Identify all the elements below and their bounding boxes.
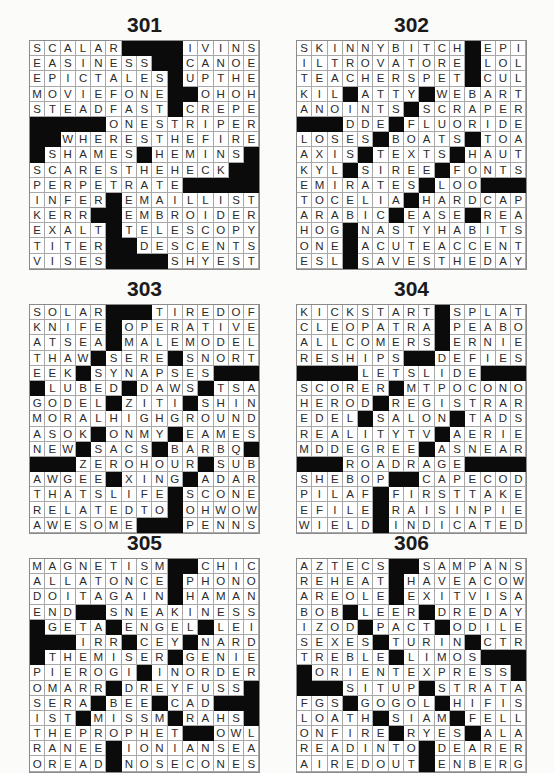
letter-cell: S	[91, 487, 106, 502]
crossword-puzzle-301: 301 SCALARIVINSEASINESSCANOEEPICTALESUPT…	[29, 12, 260, 270]
letter-cell: F	[137, 487, 152, 502]
black-square	[297, 681, 312, 696]
letter-cell: B	[343, 472, 358, 487]
letter-cell: A	[61, 41, 76, 56]
letter-cell: I	[481, 620, 496, 635]
black-square	[168, 41, 183, 56]
letter-cell: A	[214, 635, 229, 650]
black-square	[168, 102, 183, 117]
letter-cell: D	[312, 411, 327, 426]
letter-cell: K	[297, 163, 312, 178]
black-square	[419, 351, 434, 366]
black-square	[343, 605, 358, 620]
letter-cell: W	[244, 502, 259, 517]
letter-cell: A	[106, 442, 121, 457]
black-square	[419, 605, 434, 620]
black-square	[168, 711, 183, 726]
letter-cell: W	[214, 502, 229, 517]
letter-cell: I	[419, 502, 434, 517]
letter-cell: B	[328, 605, 343, 620]
letter-cell: L	[404, 411, 419, 426]
letter-cell: E	[91, 741, 106, 756]
letter-cell: E	[183, 163, 198, 178]
black-square	[328, 457, 343, 472]
black-square	[91, 605, 106, 620]
letter-cell: R	[152, 650, 167, 665]
crossword-grid: KICKSTARTSPLATCLEOPATRAPEABOALLCOMERSERN…	[296, 304, 527, 534]
letter-cell: E	[511, 502, 526, 517]
letter-cell: S	[450, 396, 465, 411]
letter-cell: R	[183, 305, 198, 320]
letter-cell: S	[450, 442, 465, 457]
letter-cell: E	[465, 665, 480, 680]
black-square	[137, 665, 152, 680]
black-square	[373, 132, 388, 147]
letter-cell: I	[404, 487, 419, 502]
letter-cell: D	[435, 351, 450, 366]
letter-cell: S	[229, 381, 244, 396]
letter-cell: S	[229, 605, 244, 620]
letter-cell: U	[496, 147, 511, 162]
letter-cell: R	[404, 726, 419, 741]
letter-cell: L	[312, 56, 327, 71]
letter-cell: M	[30, 411, 45, 426]
letter-cell: U	[198, 681, 213, 696]
letter-cell: I	[358, 351, 373, 366]
letter-cell: A	[122, 589, 137, 604]
letter-cell: H	[214, 559, 229, 574]
letter-cell: E	[312, 427, 327, 442]
letter-cell: L	[343, 411, 358, 426]
letter-cell: E	[30, 56, 45, 71]
letter-cell: F	[297, 696, 312, 711]
letter-cell: S	[389, 102, 404, 117]
letter-cell: T	[152, 102, 167, 117]
letter-cell: I	[152, 665, 167, 680]
letter-cell: E	[465, 366, 480, 381]
letter-cell: A	[76, 502, 91, 517]
letter-cell: E	[244, 71, 259, 86]
letter-cell: T	[481, 132, 496, 147]
letter-cell: L	[419, 696, 434, 711]
letter-cell: M	[450, 559, 465, 574]
letter-cell: N	[343, 41, 358, 56]
letter-cell: S	[358, 254, 373, 269]
letter-cell: E	[229, 741, 244, 756]
letter-cell: C	[244, 559, 259, 574]
letter-cell: L	[511, 71, 526, 86]
letter-cell: R	[389, 396, 404, 411]
letter-cell: T	[419, 620, 434, 635]
letter-cell: E	[61, 620, 76, 635]
letter-cell: E	[229, 756, 244, 771]
letter-cell: E	[76, 396, 91, 411]
letter-cell: D	[343, 117, 358, 132]
black-square	[106, 396, 121, 411]
letter-cell: E	[450, 741, 465, 756]
letter-cell: A	[328, 741, 343, 756]
letter-cell: A	[358, 574, 373, 589]
letter-cell: F	[358, 487, 373, 502]
letter-cell: F	[404, 117, 419, 132]
letter-cell: A	[297, 147, 312, 162]
letter-cell: M	[137, 208, 152, 223]
letter-cell: I	[404, 41, 419, 56]
letter-cell: E	[198, 238, 213, 253]
letter-cell: R	[168, 208, 183, 223]
letter-cell: N	[198, 741, 213, 756]
letter-cell: T	[76, 487, 91, 502]
letter-cell: I	[496, 696, 511, 711]
letter-cell: A	[61, 351, 76, 366]
black-square	[297, 366, 312, 381]
letter-cell: A	[511, 681, 526, 696]
letter-cell: S	[91, 254, 106, 269]
letter-cell: L	[419, 117, 434, 132]
letter-cell: C	[183, 56, 198, 71]
letter-cell: E	[465, 472, 480, 487]
letter-cell: I	[328, 41, 343, 56]
letter-cell: R	[465, 335, 480, 350]
letter-cell: T	[389, 320, 404, 335]
letter-cell: S	[122, 711, 137, 726]
letter-cell: P	[450, 320, 465, 335]
letter-cell: H	[137, 163, 152, 178]
crossword-grid: MAGNETISMCHICALLATONCEPHONODOITAGAINHAMA…	[29, 558, 260, 773]
letter-cell: A	[465, 741, 480, 756]
